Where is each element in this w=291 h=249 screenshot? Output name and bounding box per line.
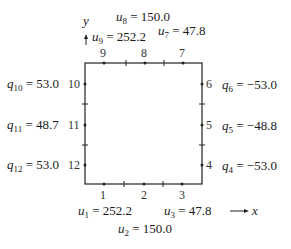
y-axis-label: y <box>83 14 89 27</box>
node-7: 7 <box>179 47 185 59</box>
value-q4: q4 = −53.0 <box>222 159 277 175</box>
x-axis-label: x <box>252 204 258 217</box>
value-u9: u9 = 252.2 <box>92 30 146 46</box>
value-q10: q10 = 53.0 <box>7 77 59 93</box>
node-11: 11 <box>68 119 80 131</box>
node-8: 8 <box>141 47 147 59</box>
value-u2: u2 = 150.0 <box>118 222 172 238</box>
y-axis-arrow-icon <box>84 34 88 45</box>
node-5: 5 <box>206 119 212 131</box>
node-12: 12 <box>68 159 80 171</box>
x-axis-arrow-icon <box>230 209 249 213</box>
value-u3: u3 = 47.8 <box>164 204 212 220</box>
node-1: 1 <box>100 189 106 201</box>
value-q6: q6 = −53.0 <box>222 78 277 94</box>
value-q11: q11 = 48.7 <box>7 118 59 134</box>
node-10: 10 <box>68 78 80 90</box>
node-9: 9 <box>100 47 106 59</box>
value-u7: u7 = 47.8 <box>158 24 206 40</box>
value-q12: q12 = 53.0 <box>7 158 59 174</box>
node-6: 6 <box>206 78 212 90</box>
node-4: 4 <box>206 159 212 171</box>
node-3: 3 <box>179 189 185 201</box>
node-2: 2 <box>141 189 147 201</box>
value-u1: u1 = 252.2 <box>78 204 132 220</box>
value-q5: q5 = −48.8 <box>222 119 277 135</box>
